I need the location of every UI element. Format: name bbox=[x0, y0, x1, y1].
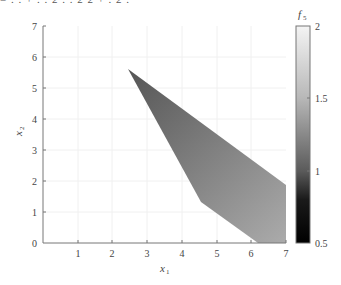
x-tick-label: 2 bbox=[110, 248, 115, 259]
y-tick-label: 6 bbox=[32, 52, 37, 63]
y-axis-label: x 2 bbox=[12, 126, 26, 137]
svg-text:x: x bbox=[12, 131, 24, 137]
x-tick-label: 1 bbox=[76, 248, 81, 259]
colorbar: 2 1.5 1 0.5 f 5 bbox=[296, 8, 328, 249]
y-tick-label: 2 bbox=[32, 176, 37, 187]
x-tick-label: 5 bbox=[215, 248, 220, 259]
x-tick-label: 3 bbox=[145, 248, 150, 259]
y-tick-label: 0 bbox=[32, 238, 37, 249]
y-tick-labels: 0 1 2 3 4 5 6 7 bbox=[32, 21, 37, 249]
colorbar-tick-label: 2 bbox=[315, 21, 320, 32]
colorbar-label: f 5 bbox=[298, 8, 307, 22]
feasible-region bbox=[128, 69, 286, 243]
y-tick-label: 7 bbox=[32, 21, 37, 32]
y-tick-label: 3 bbox=[32, 145, 37, 156]
svg-text:5: 5 bbox=[303, 14, 307, 22]
svg-text:1: 1 bbox=[166, 268, 170, 276]
y-tick-label: 4 bbox=[32, 114, 37, 125]
colorbar-tick-label: 0.5 bbox=[315, 238, 328, 249]
colorbar-tick-label: 1 bbox=[315, 166, 320, 177]
feasible-region-chart: 1 2 3 4 5 6 7 0 1 2 3 4 5 6 7 x 1 x 2 2 … bbox=[0, 0, 341, 285]
y-tick-label: 5 bbox=[32, 83, 37, 94]
x-tick-label: 6 bbox=[249, 248, 254, 259]
svg-text:2: 2 bbox=[18, 126, 26, 130]
x-tick-label: 7 bbox=[284, 248, 289, 259]
y-tick-label: 1 bbox=[32, 207, 37, 218]
x-axis-label: x 1 bbox=[159, 262, 170, 276]
svg-text:x: x bbox=[159, 262, 165, 274]
x-tick-labels: 1 2 3 4 5 6 7 bbox=[76, 248, 289, 259]
x-tick-label: 4 bbox=[180, 248, 185, 259]
colorbar-tick-label: 1.5 bbox=[315, 93, 328, 104]
